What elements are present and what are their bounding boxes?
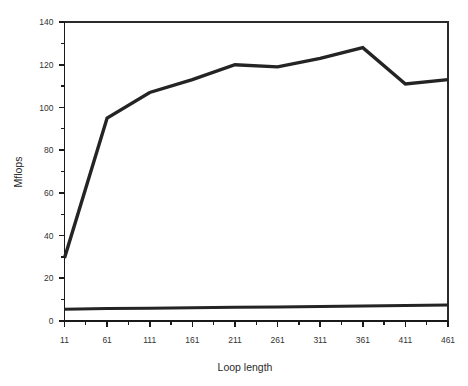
x-axis-title: Loop length [218,361,273,373]
y-axis-title: Mflops [12,157,24,188]
y-tick-label: 40 [44,231,54,241]
y-tick-label: 20 [44,273,54,283]
x-tick-label: 11 [60,335,69,345]
y-tick-label: 140 [39,17,53,27]
x-tick-label: 411 [399,335,413,345]
y-tick-label: 100 [39,103,53,113]
y-tick-label: 60 [44,188,54,198]
x-tick-label: 261 [270,335,284,345]
chart-background [0,0,468,386]
line-chart: 020406080100120140 116111116121126131136… [0,0,468,386]
chart-container: 020406080100120140 116111116121126131136… [0,0,468,386]
x-tick-label: 461 [441,335,455,345]
x-tick-label: 311 [313,335,327,345]
y-tick-label: 120 [39,60,53,70]
x-tick-label: 161 [185,335,199,345]
x-tick-label: 111 [143,335,156,345]
x-tick-label: 211 [228,335,242,345]
y-tick-label: 0 [49,316,54,326]
y-tick-label: 80 [44,145,54,155]
x-tick-label: 361 [356,335,370,345]
x-tick-label: 61 [102,335,112,345]
